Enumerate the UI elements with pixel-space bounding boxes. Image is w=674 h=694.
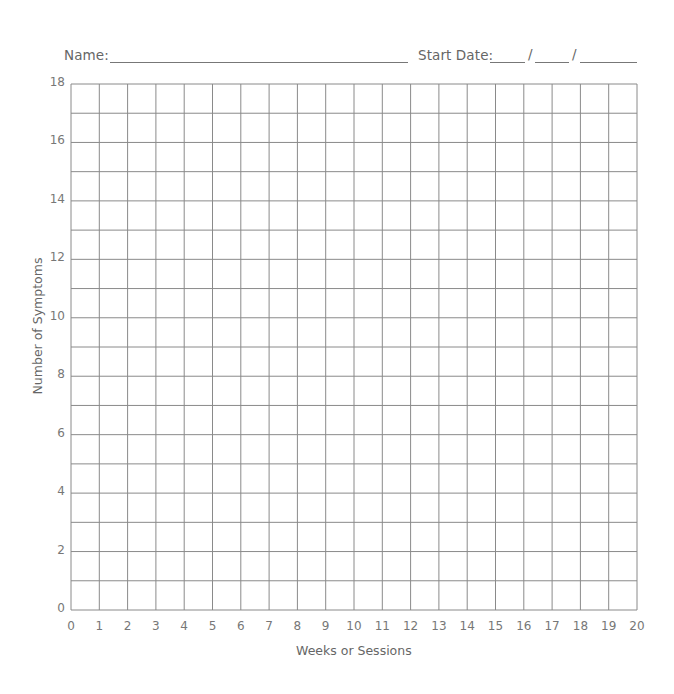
x-tick-label: 9 (311, 619, 341, 633)
y-tick-label: 14 (35, 192, 65, 206)
x-tick-label: 10 (339, 619, 369, 633)
x-tick-label: 0 (56, 619, 86, 633)
chart-grid[interactable] (0, 0, 674, 694)
x-tick-label: 14 (452, 619, 482, 633)
x-tick-label: 4 (169, 619, 199, 633)
x-tick-label: 18 (565, 619, 595, 633)
x-tick-label: 2 (113, 619, 143, 633)
x-tick-label: 1 (84, 619, 114, 633)
y-tick-label: 0 (35, 601, 65, 615)
y-tick-label: 6 (35, 426, 65, 440)
y-axis-label: Number of Symptoms (30, 275, 45, 395)
x-tick-label: 3 (141, 619, 171, 633)
x-tick-label: 5 (198, 619, 228, 633)
x-tick-label: 8 (282, 619, 312, 633)
x-tick-label: 11 (367, 619, 397, 633)
x-tick-label: 7 (254, 619, 284, 633)
x-tick-label: 12 (396, 619, 426, 633)
x-tick-label: 17 (537, 619, 567, 633)
y-tick-label: 16 (35, 133, 65, 147)
x-tick-label: 15 (481, 619, 511, 633)
y-tick-label: 18 (35, 75, 65, 89)
x-axis-label: Weeks or Sessions (296, 643, 412, 658)
x-tick-label: 13 (424, 619, 454, 633)
x-tick-label: 6 (226, 619, 256, 633)
x-tick-label: 20 (622, 619, 652, 633)
x-tick-label: 16 (509, 619, 539, 633)
x-tick-label: 19 (594, 619, 624, 633)
y-tick-label: 4 (35, 484, 65, 498)
y-tick-label: 2 (35, 543, 65, 557)
